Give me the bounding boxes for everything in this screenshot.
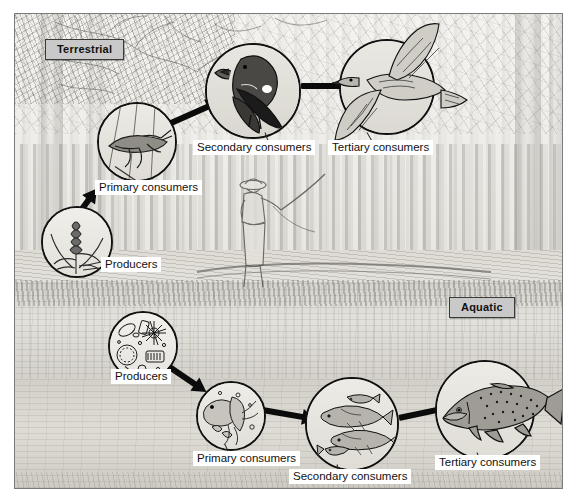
caption-aquatic-producers: Producers xyxy=(111,369,171,384)
bubble-terrestrial-secondary-consumers[interactable] xyxy=(205,43,301,139)
bubble-terrestrial-primary-consumers[interactable] xyxy=(97,102,177,182)
zone-tag-aquatic: Aquatic xyxy=(449,297,515,318)
caption-terrestrial-secondary-consumers: Secondary consumers xyxy=(193,140,315,155)
bubble-aquatic-primary-consumers[interactable] xyxy=(196,381,266,451)
caption-terrestrial-producers: Producers xyxy=(101,257,161,272)
zone-tag-terrestrial: Terrestrial xyxy=(45,39,124,60)
caption-terrestrial-tertiary-consumers: Tertiary consumers xyxy=(328,140,433,155)
figure-canvas: Terrestrial Aquatic Producers Primary co… xyxy=(0,0,576,501)
caption-aquatic-primary-consumers: Primary consumers xyxy=(193,451,300,466)
caption-aquatic-secondary-consumers: Secondary consumers xyxy=(289,469,411,484)
bubble-aquatic-secondary-consumers[interactable] xyxy=(305,377,399,471)
fallen-log xyxy=(195,252,495,292)
caption-aquatic-tertiary-consumers: Tertiary consumers xyxy=(435,455,540,470)
bubble-aquatic-tertiary-consumers[interactable] xyxy=(435,360,535,460)
illustration-plate: Terrestrial Aquatic Producers Primary co… xyxy=(14,13,563,489)
bubble-terrestrial-tertiary-consumers[interactable] xyxy=(339,39,435,135)
caption-terrestrial-primary-consumers: Primary consumers xyxy=(95,180,202,195)
